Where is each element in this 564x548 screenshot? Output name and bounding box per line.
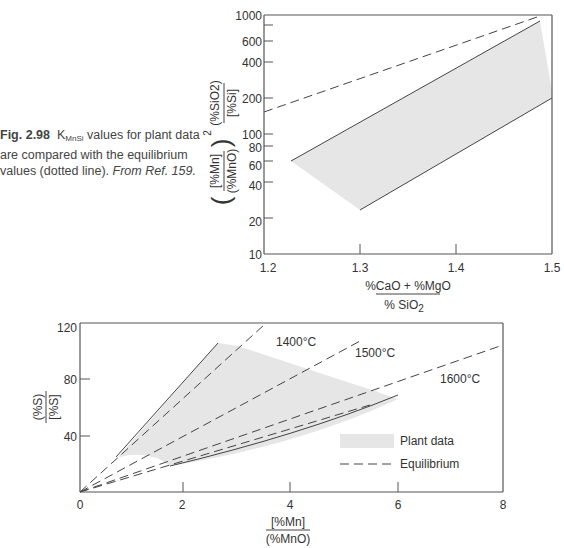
bottom-y-tick-labels: 120 80 40	[57, 321, 77, 444]
x-tick-label: 1.2	[260, 261, 277, 275]
y-tick-label: 120	[57, 321, 77, 335]
bottom-chart: 120 80 40 0 2 4 6 8 [%Mn] (%MnO) (%S) [%…	[31, 321, 507, 546]
legend: Plant data Equilibrium	[340, 434, 459, 471]
x-label-numerator: [%Mn]	[271, 515, 305, 529]
y-tick-label: 40	[249, 179, 263, 193]
y-tick-label: 80	[249, 141, 263, 155]
x-label-denominator: % SiO2	[384, 298, 424, 314]
top-y-ticks	[264, 25, 273, 218]
y-label-exponent: 2	[202, 130, 213, 136]
y-label-a-denominator: (%MnO)	[225, 149, 239, 194]
legend-plant-swatch	[340, 434, 394, 448]
annotation-1600c: 1600°C	[440, 372, 480, 386]
bottom-x-tick-labels: 0 2 4 6 8	[77, 498, 507, 512]
x-tick-label: 1.5	[544, 261, 561, 275]
bottom-x-ticks	[183, 482, 398, 492]
x-tick-label: 1.4	[448, 261, 465, 275]
y-tick-label: 60	[249, 159, 263, 173]
x-tick-label: 1.3	[352, 261, 369, 275]
y-tick-label: 80	[64, 373, 78, 387]
y-tick-label: 600	[242, 35, 262, 49]
bottom-y-ticks	[80, 379, 90, 436]
x-tick-label: 4	[287, 498, 294, 512]
y-tick-label: 400	[242, 56, 262, 70]
x-label-numerator: %CaO + %MgO	[365, 279, 451, 293]
x-tick-label: 8	[500, 498, 507, 512]
annotation-1400c: 1400°C	[276, 335, 316, 349]
y-label-b-denominator: [%Si]	[225, 89, 239, 117]
y-label-b-numerator: (%SiO2)	[208, 80, 222, 125]
x-label-denominator: (%MnO)	[266, 532, 311, 546]
y-tick-label: 40	[64, 430, 78, 444]
top-x-tick-labels: 1.2 1.3 1.4 1.5	[260, 261, 561, 275]
y-tick-label: 20	[249, 215, 263, 229]
top-y-axis-label: [%Mn] (%MnO) ( ) 2 (%SiO2) [%Si]	[202, 80, 239, 205]
y-label-denominator: [%S]	[47, 394, 61, 419]
legend-plant-label: Plant data	[400, 434, 454, 448]
top-x-axis-label: %CaO + %MgO % SiO2	[365, 279, 451, 314]
y-tick-label: 1000	[235, 9, 262, 23]
top-y-tick-labels: 1000 600 400 200 100 80 60 40 20 10	[235, 9, 262, 262]
bottom-y-axis-label: (%S) [%S]	[31, 391, 61, 423]
left-paren: (	[206, 196, 236, 205]
top-x-ticks	[360, 244, 456, 254]
x-tick-label: 0	[77, 498, 84, 512]
annotation-1500c: 1500°C	[355, 346, 395, 360]
legend-equilibrium-label: Equilibrium	[400, 457, 459, 471]
bottom-x-axis-label: [%Mn] (%MnO)	[266, 515, 311, 546]
y-tick-label: 200	[242, 92, 262, 106]
y-tick-label: 100	[242, 128, 262, 142]
x-tick-label: 2	[179, 498, 186, 512]
figure-canvas: 1000 600 400 200 100 80 60 40 20 10 1.2 …	[0, 0, 564, 548]
right-paren: )	[206, 139, 236, 148]
top-chart: 1000 600 400 200 100 80 60 40 20 10 1.2 …	[202, 9, 561, 314]
top-plant-data-band	[291, 21, 552, 210]
y-label-numerator: (%S)	[31, 394, 45, 421]
y-label-a-numerator: [%Mn]	[208, 154, 222, 188]
y-tick-label: 10	[249, 248, 263, 262]
x-tick-label: 6	[395, 498, 402, 512]
